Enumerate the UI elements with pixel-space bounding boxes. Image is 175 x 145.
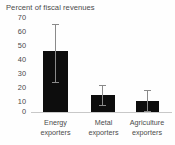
error-bar-cap-upper-metal-exporters — [99, 85, 106, 86]
bar-chart: Percent of fiscal revenues 70 60 50 40 3… — [0, 0, 175, 145]
error-bar-stem-metal-exporters — [102, 85, 103, 105]
y-tick-label-0: 0 — [6, 108, 26, 116]
error-bar-cap-lower-metal-exporters — [99, 105, 106, 106]
error-bar-cap-lower-energy-exporters — [52, 82, 59, 83]
bar-metal-exporters — [91, 95, 115, 112]
x-tick-label-agriculture-exporters-line2: exporters — [119, 128, 175, 138]
y-tick-label-10: 10 — [6, 98, 26, 106]
x-tick-label-agriculture-exporters: Agriculture exporters — [119, 118, 175, 137]
plot-area: 70 60 50 40 30 20 10 0 Energy exporters … — [0, 0, 175, 145]
y-tick-label-20: 20 — [6, 84, 26, 92]
x-tick-label-energy-exporters-line2: exporters — [28, 128, 83, 138]
error-bar-cap-lower-agriculture-exporters — [144, 111, 151, 112]
y-tick-label-70: 70 — [6, 14, 26, 22]
error-bar-stem-energy-exporters — [55, 24, 56, 82]
y-tick-label-30: 30 — [6, 70, 26, 78]
y-tick-label-50: 50 — [6, 42, 26, 50]
y-tick-label-60: 60 — [6, 28, 26, 36]
y-tick-label-40: 40 — [6, 56, 26, 64]
error-bar-cap-upper-energy-exporters — [52, 24, 59, 25]
x-tick-label-agriculture-exporters-line1: Agriculture — [119, 118, 175, 128]
x-axis-line — [31, 112, 172, 113]
error-bar-cap-upper-agriculture-exporters — [144, 90, 151, 91]
error-bar-stem-agriculture-exporters — [147, 90, 148, 110]
x-tick-label-energy-exporters: Energy exporters — [28, 118, 83, 137]
x-tick-label-energy-exporters-line1: Energy — [28, 118, 83, 128]
